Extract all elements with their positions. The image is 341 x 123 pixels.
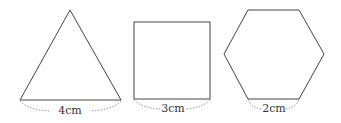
square-dimension-arc-left bbox=[134, 100, 160, 109]
hexagon-side-label: 2cm bbox=[262, 102, 286, 115]
square-figure: 3cm bbox=[134, 22, 210, 115]
triangle-side-label: 4cm bbox=[58, 104, 82, 117]
shapes-diagram: 4cm 3cm 2cm bbox=[0, 0, 341, 123]
triangle-dimension-arc-left bbox=[20, 101, 50, 111]
triangle-dimension-arc-right bbox=[90, 101, 121, 111]
hexagon-shape bbox=[224, 10, 324, 99]
hexagon-dimension-arc-right bbox=[285, 100, 299, 109]
triangle-figure: 4cm bbox=[20, 10, 121, 117]
square-side-label: 3cm bbox=[161, 102, 185, 115]
triangle-shape bbox=[20, 10, 121, 100]
hexagon-dimension-arc-left bbox=[248, 100, 262, 109]
square-shape bbox=[134, 22, 210, 99]
hexagon-figure: 2cm bbox=[224, 10, 324, 115]
square-dimension-arc-right bbox=[186, 100, 210, 109]
